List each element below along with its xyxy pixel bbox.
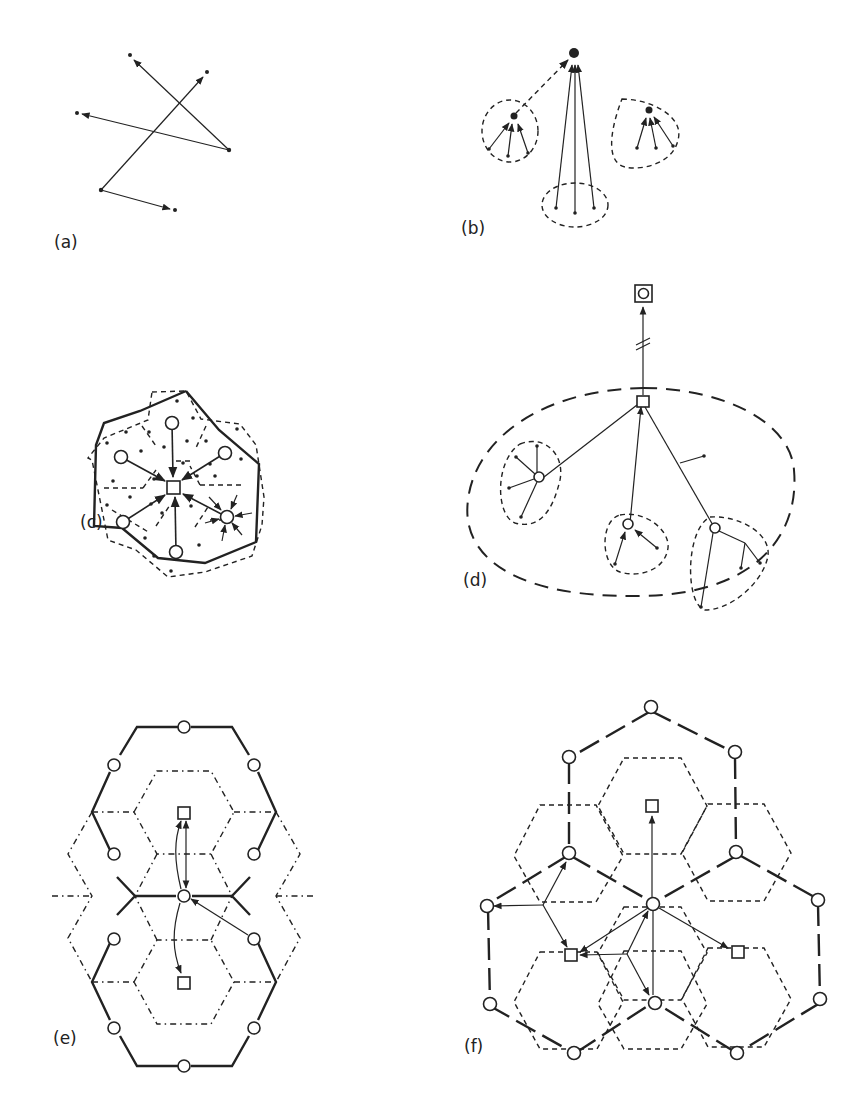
panel-d: (d) [463, 285, 794, 610]
panel-e: (e) [52, 721, 316, 1072]
panel-label-d: (d) [463, 570, 487, 590]
panel-label-f: (f) [464, 1036, 483, 1056]
panel-label-e: (e) [53, 1028, 77, 1048]
panel-label-b: (b) [461, 218, 485, 238]
panel-c: (c) [80, 391, 264, 577]
panel-label-c: (c) [80, 512, 103, 532]
panel-label-a: (a) [54, 232, 78, 252]
panel-b: (b) [461, 48, 679, 238]
panel-f: (f) [464, 701, 827, 1060]
diagram-figure: (a) (b) [0, 0, 864, 1113]
panel-a: (a) [54, 53, 231, 252]
